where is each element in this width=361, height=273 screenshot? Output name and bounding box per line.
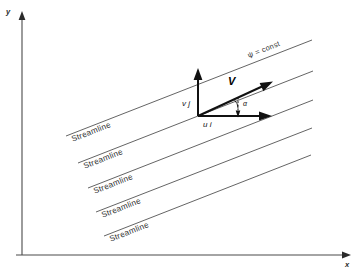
V-vector-shaft	[198, 87, 262, 117]
V-vector-label: V	[228, 76, 235, 87]
v-j-vector-arrowhead	[194, 68, 203, 80]
x-axis-label: x	[345, 261, 349, 269]
x-axis-arrowhead	[342, 252, 351, 259]
y-axis-arrowhead	[19, 11, 26, 20]
figure-root: y x ψ = const Streamline Streamline Stre…	[0, 0, 361, 273]
u-i-vector-arrowhead	[259, 112, 272, 121]
streamlines-group	[66, 40, 313, 236]
y-axis-label: y	[6, 8, 10, 16]
v-j-label: v j	[182, 100, 190, 108]
axes-group	[16, 11, 351, 258]
u-i-label: u i	[203, 121, 211, 129]
alpha-label: α	[243, 100, 247, 107]
streamline-figure-svg	[0, 0, 361, 273]
